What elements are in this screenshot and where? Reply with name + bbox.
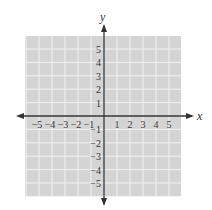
x-axis-right-arrow-icon	[186, 113, 194, 119]
y-tick-label: 3	[96, 71, 101, 82]
y-tick-label: 2	[96, 84, 101, 95]
y-axis-up-arrow-icon	[101, 24, 107, 32]
x-tick-label: 4	[154, 119, 159, 130]
x-tick-label: −5	[32, 119, 43, 130]
y-tick-label: −2	[90, 138, 101, 149]
x-tick-label: −2	[71, 119, 82, 130]
y-tick-label: 5	[96, 44, 101, 55]
x-tick-label: −3	[58, 119, 69, 130]
x-axis-left-arrow-icon	[16, 113, 24, 119]
y-tick-label: −5	[90, 178, 101, 189]
y-tick-label: 4	[96, 57, 101, 68]
y-tick-label: −4	[90, 165, 101, 176]
coordinate-plane: x y −5−4−3−2−112345 54321−1−2−3−4−5	[0, 0, 212, 210]
x-tick-label: 2	[128, 119, 133, 130]
x-axis-label: x	[196, 109, 203, 123]
x-tick-label: 5	[167, 119, 172, 130]
x-tick-label: 1	[115, 119, 120, 130]
y-tick-label: 1	[96, 98, 101, 109]
y-tick-label: −1	[90, 124, 101, 135]
y-tick-label: −3	[90, 151, 101, 162]
y-axis-down-arrow-icon	[101, 198, 107, 206]
y-axis-label: y	[99, 10, 106, 24]
x-tick-label: 3	[141, 119, 146, 130]
x-tick-label: −4	[45, 119, 56, 130]
